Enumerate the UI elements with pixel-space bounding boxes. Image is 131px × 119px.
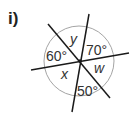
intersection-point: [78, 59, 82, 63]
intersecting-lines-diagram: y 70° w 50° x 60°: [0, 0, 131, 119]
angle-70: 70°: [86, 42, 107, 58]
angle-x: x: [60, 66, 69, 82]
angle-y: y: [69, 31, 78, 47]
angle-60: 60°: [46, 48, 67, 64]
angle-w: w: [94, 60, 105, 76]
angle-50: 50°: [77, 83, 98, 99]
